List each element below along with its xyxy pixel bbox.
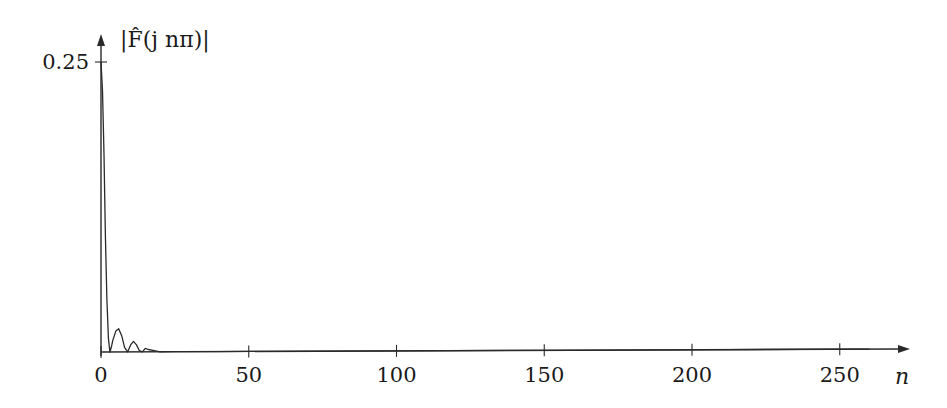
x-tick-label: 250 <box>820 363 860 387</box>
x-tick-label: 100 <box>376 363 416 387</box>
axes <box>97 34 910 356</box>
chart-canvas: 0501001502002500.25 |F̂(j nπ)| n <box>0 0 947 408</box>
x-axis-arrow-icon <box>898 345 910 353</box>
ticks: 0501001502002500.25 <box>42 50 860 387</box>
data-series <box>101 62 869 352</box>
x-tick-label: 150 <box>524 363 564 387</box>
x-tick-label: 0 <box>94 363 107 387</box>
x-tick-label: 200 <box>672 363 712 387</box>
y-axis-label: |F̂(j nπ)| <box>120 27 210 53</box>
spectrum-line <box>101 62 869 352</box>
x-tick-label: 50 <box>235 363 262 387</box>
x-axis-label: n <box>895 364 909 389</box>
axis-labels: |F̂(j nπ)| n <box>120 27 909 389</box>
y-axis-arrow-icon <box>97 34 105 46</box>
y-tick-label: 0.25 <box>42 50 89 74</box>
